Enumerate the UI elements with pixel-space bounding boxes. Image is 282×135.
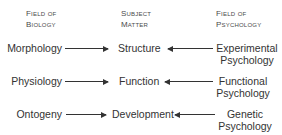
psychology-functional: Functional Psychology [212,75,274,99]
psychology-experimental: Experimental Psychology [216,42,278,66]
header-biology-line2: Biology [26,19,56,30]
psychology-label-line1: Functional [212,75,274,87]
arrow-left-icon [168,48,213,49]
header-subject-line2: Matter [121,19,151,30]
subject-development: Development [112,108,174,120]
psychology-label-line2: Psychology [216,54,278,66]
biology-physiology: Physiology [11,75,62,87]
subject-function: Function [119,75,159,87]
psychology-label-line2: Psychology [212,87,274,99]
psychology-label-line1: Experimental [216,42,278,54]
biology-morphology: Morphology [7,42,62,54]
arrow-right-icon [66,114,106,115]
header-subject-line1: Subject [121,8,151,19]
psychology-label-line2: Psychology [214,120,276,132]
biology-ontogeny: Ontogeny [16,108,62,120]
arrow-right-icon [65,81,108,82]
arrow-left-icon [175,114,215,115]
header-field-of-biology: Field of Biology [26,8,56,30]
header-field-of-psychology: Field of Psychology [216,8,261,30]
arrow-right-icon [65,48,108,49]
header-psychology-line1: Field of [216,8,261,19]
header-subject-matter: Subject Matter [121,8,151,30]
header-psychology-line2: Psychology [216,19,261,30]
arrow-left-icon [165,81,213,82]
subject-structure: Structure [118,42,161,54]
psychology-label-line1: Genetic [214,108,276,120]
header-biology-line1: Field of [26,8,56,19]
psychology-genetic: Genetic Psychology [214,108,276,132]
